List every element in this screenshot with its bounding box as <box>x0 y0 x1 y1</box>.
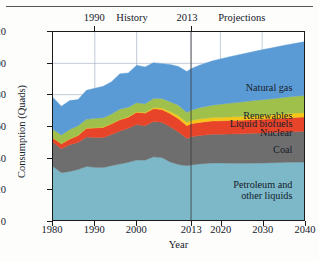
y-tick-mark <box>47 31 52 32</box>
label-petroleum: Petroleum andother liquids <box>233 179 292 202</box>
y-tick-label: 0 <box>0 216 6 227</box>
x-tick-mark <box>52 221 53 226</box>
x-tick-mark <box>263 221 264 226</box>
y-tick-mark <box>47 189 52 190</box>
y-tick-label: 40 <box>0 152 6 163</box>
x-tick-mark <box>191 221 192 226</box>
label-nuclear: Nuclear <box>260 127 292 138</box>
y-tick-mark <box>47 158 52 159</box>
y-tick-mark <box>47 126 52 127</box>
y-tick-label: 20 <box>0 184 6 195</box>
x-axis-title: Year <box>52 239 305 250</box>
era-tick-mark <box>94 26 95 31</box>
y-tick-label: 120 <box>0 26 6 37</box>
x-tick-mark <box>305 221 306 226</box>
era-tick-mark <box>191 26 192 31</box>
y-tick-label: 80 <box>0 89 6 100</box>
label-coal: Coal <box>273 144 292 155</box>
y-tick-mark <box>47 94 52 95</box>
figure-root: 1990History2013Projections 0204060801001… <box>0 0 319 262</box>
x-tick-mark <box>221 221 222 226</box>
axis-decorations: 0204060801001201980199020002013202020302… <box>0 0 319 262</box>
y-tick-mark <box>47 63 52 64</box>
y-axis-title: Consumption (Quads) <box>16 37 27 227</box>
label-natural-gas: Natural gas <box>246 82 293 93</box>
x-tick-mark <box>94 221 95 226</box>
y-tick-label: 60 <box>0 121 6 132</box>
y-tick-label: 100 <box>0 57 6 68</box>
x-tick-mark <box>136 221 137 226</box>
